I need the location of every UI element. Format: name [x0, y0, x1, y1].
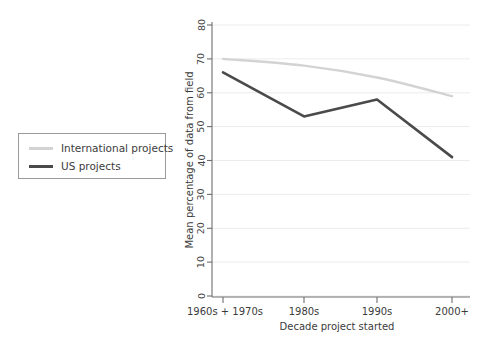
x-axis — [212, 297, 470, 303]
y-tick-label-0: 0 — [196, 293, 207, 299]
y-axis — [207, 22, 212, 297]
x-tick-label-1990s: 1990s — [362, 306, 393, 317]
y-tick-label-80: 80 — [196, 19, 207, 31]
plot-area: 80 70 60 50 40 30 20 10 0 Mean percentag… — [0, 0, 482, 343]
data-series-layer — [223, 59, 452, 157]
y-tick-label-20: 20 — [196, 222, 207, 234]
series-line-us-projects — [223, 72, 452, 157]
x-axis-title: Decade project started — [280, 321, 395, 332]
y-tick-label-10: 10 — [196, 256, 207, 268]
x-tick-label-1960s-1970s: 1960s + 1970s — [187, 306, 263, 317]
line-chart: International projects US projects — [0, 0, 482, 343]
y-tick-label-40: 40 — [196, 154, 207, 166]
x-tick-label-1980s: 1980s — [289, 306, 320, 317]
y-tick-label-70: 70 — [196, 53, 207, 65]
x-tick-labels: 1960s + 1970s 1980s 1990s 2000+ — [187, 306, 469, 317]
y-tick-labels: 80 70 60 50 40 30 20 10 0 — [196, 19, 207, 299]
grid-lines — [212, 25, 470, 296]
y-tick-label-60: 60 — [196, 87, 207, 99]
y-tick-label-30: 30 — [196, 188, 207, 200]
x-tick-label-2000plus: 2000+ — [435, 306, 469, 317]
y-tick-label-50: 50 — [196, 121, 207, 133]
y-axis-title: Mean percentage of data from field — [184, 71, 195, 248]
